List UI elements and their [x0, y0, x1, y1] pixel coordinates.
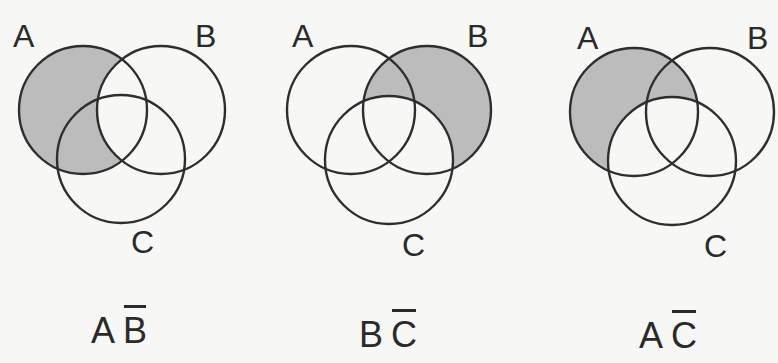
venn-figure: ABCABABCBCABCAC: [0, 0, 778, 363]
complement-overline: [672, 310, 696, 313]
complement-overline: [392, 309, 416, 312]
venn-diagram-b-not-c: ABCBC: [287, 18, 491, 355]
caption-right: C: [671, 315, 697, 356]
set-label-a: A: [292, 18, 314, 54]
set-label-a: A: [577, 20, 599, 56]
set-label-b: B: [195, 18, 216, 54]
caption: BC: [359, 314, 417, 355]
caption: AC: [639, 315, 697, 356]
set-label-b: B: [467, 18, 488, 54]
venn-diagram-a-not-b: ABCAB: [13, 18, 225, 351]
caption-left: B: [359, 314, 383, 355]
venn-canvas: ABCABABCBCABCAC: [0, 0, 778, 363]
caption: AB: [91, 310, 147, 351]
caption-left: A: [639, 315, 663, 356]
venn-diagram-a-not-c: ABCAC: [570, 20, 774, 356]
set-label-b: B: [747, 20, 768, 56]
caption-left: A: [91, 310, 115, 351]
complement-overline: [124, 305, 146, 308]
caption-right: B: [123, 310, 147, 351]
caption-right: C: [391, 314, 417, 355]
set-label-a: A: [13, 18, 35, 54]
set-label-c: C: [704, 228, 727, 264]
set-label-c: C: [131, 224, 154, 260]
set-label-c: C: [402, 227, 425, 263]
